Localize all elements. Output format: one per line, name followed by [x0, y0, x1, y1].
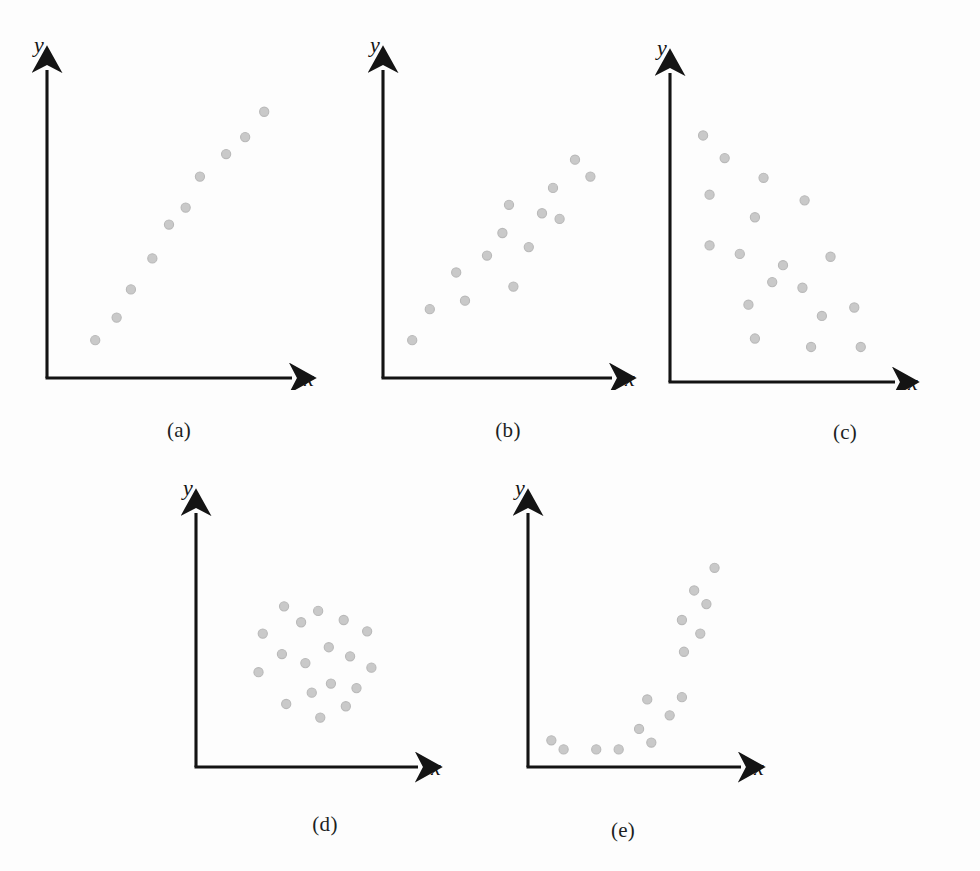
data-point — [324, 643, 333, 652]
data-point — [91, 336, 100, 345]
caption-d: (d) — [285, 812, 365, 837]
data-point — [817, 311, 826, 320]
data-point — [282, 699, 291, 708]
data-point — [647, 738, 656, 747]
data-point — [241, 133, 250, 142]
data-point — [759, 173, 768, 182]
data-point — [498, 228, 507, 237]
data-point — [254, 668, 263, 677]
data-point — [570, 155, 579, 164]
panel-b-x-label: x — [624, 366, 635, 390]
data-point — [316, 713, 325, 722]
data-point — [768, 278, 777, 287]
data-point — [258, 629, 267, 638]
data-point — [778, 261, 787, 270]
data-point — [592, 745, 601, 754]
data-point — [112, 313, 121, 322]
data-point — [850, 303, 859, 312]
data-point — [677, 693, 686, 702]
panel-a: y x — [20, 30, 320, 390]
data-point — [346, 652, 355, 661]
caption-b: (b) — [468, 418, 548, 443]
panel-d-x-label: x — [430, 755, 441, 780]
panel-c: y x — [645, 30, 955, 390]
panel-b-points — [408, 155, 595, 345]
data-point — [705, 241, 714, 250]
panel-a-plot: y x — [20, 30, 320, 390]
panel-c-x-label: x — [907, 370, 918, 390]
data-point — [314, 606, 323, 615]
panel-e-plot: y x — [490, 470, 790, 790]
data-point — [547, 736, 556, 745]
caption-c: (c) — [805, 420, 885, 445]
data-point — [181, 203, 190, 212]
data-point — [744, 300, 753, 309]
data-point — [634, 724, 643, 733]
data-point — [126, 285, 135, 294]
data-point — [301, 659, 310, 668]
caption-a: (a) — [139, 418, 219, 443]
data-point — [460, 296, 469, 305]
panel-d-points — [254, 602, 376, 722]
panel-b-plot: y x — [350, 30, 650, 390]
panel-e-points — [547, 563, 719, 754]
data-point — [677, 615, 686, 624]
data-point — [698, 131, 707, 140]
data-point — [277, 649, 286, 658]
panel-a-points — [91, 107, 269, 345]
data-point — [826, 252, 835, 261]
data-point — [750, 213, 759, 222]
panel-a-y-label: y — [32, 32, 44, 57]
panel-c-points — [698, 131, 865, 352]
data-point — [720, 153, 729, 162]
data-point — [164, 220, 173, 229]
data-point — [614, 745, 623, 754]
data-point — [408, 336, 417, 345]
data-point — [735, 249, 744, 258]
data-point — [750, 334, 759, 343]
panel-c-y-label: y — [655, 35, 667, 60]
data-point — [555, 214, 564, 223]
data-point — [705, 190, 714, 199]
data-point — [482, 251, 491, 260]
data-point — [363, 627, 372, 636]
panel-d-plot: y x — [170, 470, 470, 790]
data-point — [800, 196, 809, 205]
data-point — [307, 688, 316, 697]
data-point — [798, 283, 807, 292]
data-point — [806, 342, 815, 351]
panel-e-x-label: x — [753, 755, 764, 780]
data-point — [509, 282, 518, 291]
data-point — [665, 711, 674, 720]
data-point — [690, 586, 699, 595]
data-point — [339, 615, 348, 624]
panel-a-x-label: x — [303, 366, 314, 390]
data-point — [326, 679, 335, 688]
data-point — [548, 183, 557, 192]
panel-d-y-label: y — [181, 475, 193, 500]
data-point — [696, 629, 705, 638]
data-point — [279, 602, 288, 611]
caption-e: (e) — [583, 818, 663, 843]
data-point — [643, 695, 652, 704]
panel-e-y-label: y — [513, 475, 525, 500]
data-point — [352, 683, 361, 692]
data-point — [710, 563, 719, 572]
data-point — [702, 600, 711, 609]
data-point — [504, 200, 513, 209]
data-point — [222, 149, 231, 158]
panel-c-plot: y x — [645, 30, 955, 390]
data-point — [524, 243, 533, 252]
data-point — [537, 209, 546, 218]
scatter-diagram-figure: y x (a) y x (b) — [0, 0, 980, 871]
data-point — [367, 663, 376, 672]
data-point — [452, 268, 461, 277]
data-point — [195, 172, 204, 181]
panel-e: y x — [490, 470, 790, 790]
data-point — [148, 254, 157, 263]
data-point — [586, 172, 595, 181]
data-point — [856, 342, 865, 351]
data-point — [425, 305, 434, 314]
panel-b-y-label: y — [368, 32, 380, 57]
data-point — [679, 647, 688, 656]
